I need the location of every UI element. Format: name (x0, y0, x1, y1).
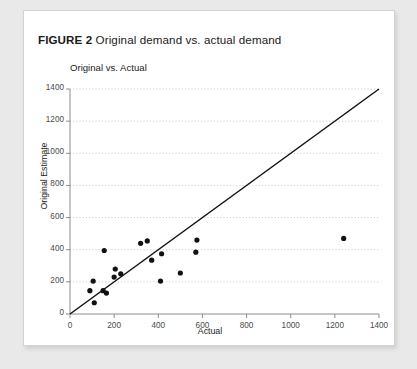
page-background: FIGURE 2 Original demand vs. actual dema… (0, 0, 417, 369)
x-tick-label: 800 (227, 321, 267, 330)
scatter-point (102, 248, 107, 253)
y-tick-label: 0 (24, 308, 64, 317)
y-tick-label: 400 (24, 244, 64, 253)
y-tick-label: 1400 (24, 83, 64, 92)
x-tick-label: 600 (182, 321, 222, 330)
scatter-point (159, 251, 164, 256)
data-points (87, 236, 346, 305)
x-tick-label: 1200 (315, 321, 355, 330)
x-tick-label: 0 (50, 321, 90, 330)
scatter-point (149, 258, 154, 263)
x-tick-label: 1000 (271, 321, 311, 330)
figure-card: FIGURE 2 Original demand vs. actual dema… (23, 10, 395, 346)
reference-line (70, 89, 379, 314)
scatter-point (118, 271, 123, 276)
scatter-point (178, 270, 183, 275)
scatter-chart: Original vs. Actual Original Estimate Ac… (24, 11, 396, 347)
y-tick-label: 600 (24, 212, 64, 221)
scatter-point (158, 278, 163, 283)
y-tick-label: 1200 (24, 115, 64, 124)
scatter-point (145, 238, 150, 243)
x-tick-label: 400 (138, 321, 178, 330)
chart-title: Original vs. Actual (70, 62, 147, 73)
gridlines (70, 89, 379, 282)
scatter-point (113, 266, 118, 271)
x-tick-label: 200 (94, 321, 134, 330)
scatter-point (112, 274, 117, 279)
scatter-point (87, 288, 92, 293)
y-tick-label: 200 (24, 276, 64, 285)
scatter-point (138, 241, 143, 246)
scatter-point (194, 237, 199, 242)
scatter-point (91, 278, 96, 283)
reference-line-segment (70, 89, 379, 314)
scatter-point (92, 300, 97, 305)
scatter-point (104, 291, 109, 296)
scatter-point (193, 250, 198, 255)
y-tick-label: 800 (24, 179, 64, 188)
scatter-point (341, 236, 346, 241)
y-tick-label: 1000 (24, 147, 64, 156)
x-tick-label: 1400 (359, 321, 399, 330)
